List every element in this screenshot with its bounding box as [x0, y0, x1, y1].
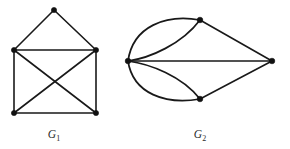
- graph-g2-vertices: [125, 17, 275, 102]
- graph-g2: G2: [125, 17, 275, 142]
- vertex-g2-left: [125, 58, 131, 64]
- vertex-g1-apex: [51, 7, 56, 12]
- graph-g1-edges: [14, 10, 96, 113]
- edge-apex-right: [54, 10, 96, 50]
- edge-left-top-outer: [128, 19, 200, 61]
- edge-top-right: [200, 20, 272, 61]
- graph-g1: G1: [11, 7, 98, 142]
- edge-left-bottom-inner: [128, 61, 200, 99]
- vertex-g1-left: [11, 47, 16, 52]
- graph-g1-vertices: [11, 7, 98, 115]
- vertex-g1-bottom-right: [93, 110, 98, 115]
- vertex-g2-top: [197, 17, 203, 23]
- graph-g1-caption: G1: [48, 128, 60, 143]
- graph-figure-canvas: G1 G2: [0, 0, 290, 149]
- edge-left-bottom-outer: [128, 61, 200, 101]
- edge-left-top-inner: [128, 20, 200, 61]
- graph-g2-caption-subscript: 2: [202, 134, 206, 143]
- vertex-g2-bottom: [197, 96, 203, 102]
- edge-bottom-right: [200, 61, 272, 99]
- vertex-g2-right: [269, 58, 275, 64]
- graph-g2-caption: G2: [194, 128, 206, 143]
- figure-container: G1 G2: [0, 0, 290, 149]
- edge-apex-left: [14, 10, 54, 50]
- graph-g1-caption-subscript: 1: [56, 134, 60, 143]
- vertex-g1-right: [93, 47, 98, 52]
- graph-g2-edges: [128, 19, 272, 101]
- vertex-g1-bottom-left: [11, 110, 16, 115]
